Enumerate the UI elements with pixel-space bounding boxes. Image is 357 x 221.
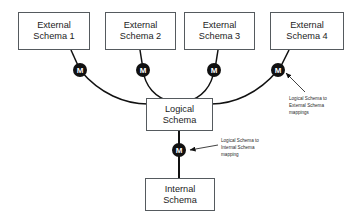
logical-schema-line2: Schema [163,115,197,126]
logical-schema-line1: Logical [165,104,194,115]
external-schema-2-line1: External [124,20,158,31]
mapping-node-internal-label: M [176,146,183,155]
annotation-external-mapping: Logical Schema to External Schema mappin… [289,96,327,117]
internal-schema-line2: Schema [163,195,197,206]
external-schema-box-2[interactable]: External Schema 2 [105,12,176,50]
mapping-node-external-3[interactable]: M [207,63,221,77]
annotation-leader-internal [190,145,218,150]
logical-schema-box[interactable]: Logical Schema [146,98,213,131]
external-schema-box-4[interactable]: External Schema 4 [270,12,344,50]
mapping-node-external-3-label: M [211,66,218,75]
external-schema-3-line2: Schema 3 [199,31,240,42]
annotation-external-mapping-line1: Logical Schema to [289,96,327,103]
external-schema-3-line1: External [203,20,237,31]
annotation-internal-mapping-line2: Internal Schema [221,145,259,152]
annotation-leader-external [286,73,305,92]
connector-external-4-lower [211,70,278,104]
annotation-internal-mapping: Logical Schema to Internal Schema mappin… [221,138,259,159]
mapping-node-external-2[interactable]: M [136,63,150,77]
internal-schema-line1: Internal [165,184,196,195]
external-schema-1-line1: External [37,20,71,31]
external-schema-box-1[interactable]: External Schema 1 [18,12,90,50]
annotation-external-mapping-line3: mappings [289,110,327,117]
external-schema-4-line1: External [290,20,324,31]
internal-schema-box[interactable]: Internal Schema [145,178,215,211]
annotation-external-mapping-line2: External Schema [289,103,327,110]
mapping-node-external-4[interactable]: M [271,63,285,77]
mapping-node-internal[interactable]: M [172,143,186,157]
annotation-internal-mapping-line1: Logical Schema to [221,138,259,145]
external-schema-1-line2: Schema 1 [33,31,74,42]
external-schema-2-line2: Schema 2 [120,31,161,42]
annotation-internal-mapping-line3: mapping [221,152,259,159]
mapping-node-external-2-label: M [140,66,147,75]
schema-architecture-diagram: External Schema 1 External Schema 2 Exte… [0,0,357,221]
mapping-node-external-4-label: M [275,66,282,75]
mapping-node-external-1[interactable]: M [73,63,87,77]
external-schema-4-line2: Schema 4 [286,31,327,42]
external-schema-box-3[interactable]: External Schema 3 [184,12,255,50]
mapping-node-external-1-label: M [77,66,84,75]
